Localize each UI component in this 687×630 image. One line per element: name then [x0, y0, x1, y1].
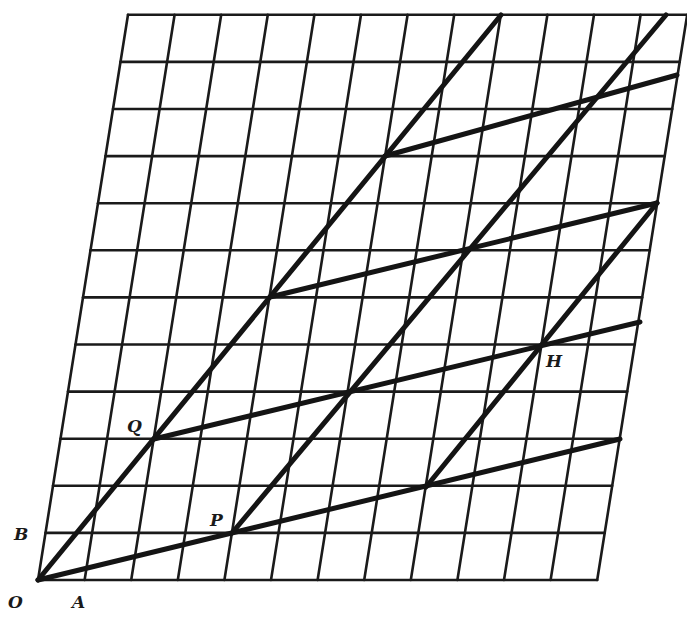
label-B: B — [14, 524, 28, 544]
line-OP — [38, 439, 620, 580]
label-Q: Q — [127, 416, 142, 436]
line-top-parallel — [385, 75, 677, 156]
label-P: P — [210, 510, 223, 530]
label-O: O — [8, 592, 23, 612]
label-A: A — [72, 592, 85, 612]
oblique-grid-diagram — [0, 0, 687, 630]
label-H: H — [546, 351, 562, 371]
